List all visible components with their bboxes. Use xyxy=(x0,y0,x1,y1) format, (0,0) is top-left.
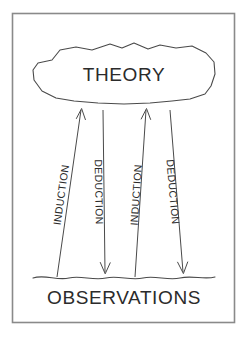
edge-deduction-2-label: DEDUCTION xyxy=(164,159,182,225)
edge-deduction-1-label: DEDUCTION xyxy=(93,159,106,224)
scientific-method-diagram: THEORY OBSERVATIONS INDUCTION DEDUCTION … xyxy=(0,0,249,337)
edge-induction-2: INDUCTION xyxy=(128,109,151,278)
edge-induction-1-label: INDUCTION xyxy=(51,164,71,226)
theory-label: THEORY xyxy=(83,64,165,85)
observations-ground-line xyxy=(33,277,215,279)
diagram-figure: THEORY OBSERVATIONS INDUCTION DEDUCTION … xyxy=(0,0,249,337)
edge-deduction-1: DEDUCTION xyxy=(93,110,111,274)
edge-deduction-2: DEDUCTION xyxy=(164,110,187,274)
observations-label: OBSERVATIONS xyxy=(47,287,201,308)
edge-induction-2-label: INDUCTION xyxy=(128,164,144,226)
edge-induction-1: INDUCTION xyxy=(51,109,86,278)
